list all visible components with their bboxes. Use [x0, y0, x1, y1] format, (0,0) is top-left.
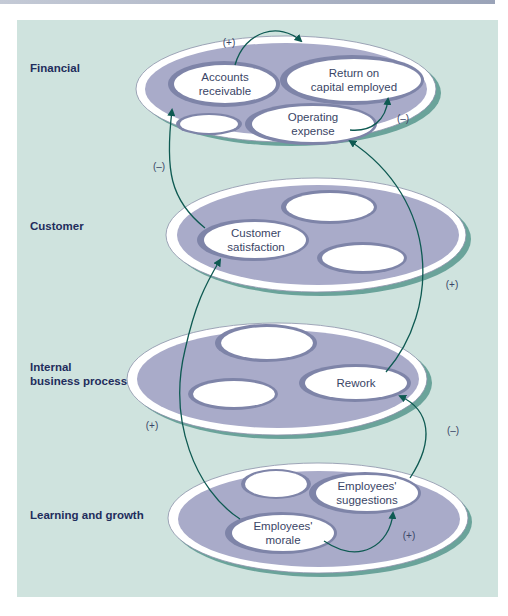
sign-rework-to-opex: (+)	[446, 279, 459, 290]
node-return-on-capital: Return on capital employed	[280, 55, 424, 105]
perspective-financial: Accounts receivable Return on capital em…	[136, 36, 441, 146]
svg-text:Rework: Rework	[337, 377, 376, 389]
perspective-learning: Employees' suggestions Employees' morale	[168, 463, 472, 577]
node-blank-learning	[241, 469, 311, 499]
node-operating-expense: Operating expense	[245, 103, 377, 145]
svg-text:morale: morale	[265, 534, 300, 546]
node-employees-morale: Employees' morale	[225, 512, 337, 554]
svg-text:suggestions: suggestions	[336, 494, 398, 506]
node-blank-financial	[176, 113, 242, 135]
svg-text:Employees': Employees'	[337, 480, 396, 492]
svg-text:Customer: Customer	[231, 227, 281, 239]
svg-text:Accounts: Accounts	[201, 71, 249, 83]
node-blank-customer-top	[281, 190, 377, 224]
node-accounts-receivable: Accounts receivable	[168, 61, 280, 107]
perspective-internal: Rework	[127, 323, 432, 439]
svg-text:Employees': Employees'	[253, 520, 312, 532]
svg-text:expense: expense	[291, 125, 334, 137]
strategy-map-diagram: Accounts receivable Return on capital em…	[0, 0, 508, 616]
node-blank-internal-left	[188, 378, 278, 410]
node-rework: Rework	[299, 364, 411, 402]
svg-text:satisfaction: satisfaction	[227, 241, 285, 253]
sign-opex-to-roce: (–)	[397, 113, 409, 124]
perspective-customer: Customer satisfaction	[166, 178, 471, 296]
svg-text:capital employed: capital employed	[311, 81, 397, 93]
sign-ar-to-roce: (+)	[223, 37, 236, 48]
sign-custsat-to-ar: (–)	[153, 161, 165, 172]
svg-text:Operating: Operating	[288, 111, 339, 123]
node-blank-customer-bottom	[317, 242, 407, 274]
svg-text:Return on: Return on	[329, 67, 380, 79]
sign-suggestions-to-rework: (–)	[447, 425, 459, 436]
svg-text:receivable: receivable	[199, 85, 251, 97]
node-customer-satisfaction: Customer satisfaction	[197, 219, 309, 261]
sign-morale-to-suggestions: (+)	[403, 530, 416, 541]
sign-morale-to-custsat: (+)	[146, 420, 159, 431]
node-employees-suggestions: Employees' suggestions	[309, 472, 421, 514]
node-blank-internal-top	[215, 324, 317, 362]
